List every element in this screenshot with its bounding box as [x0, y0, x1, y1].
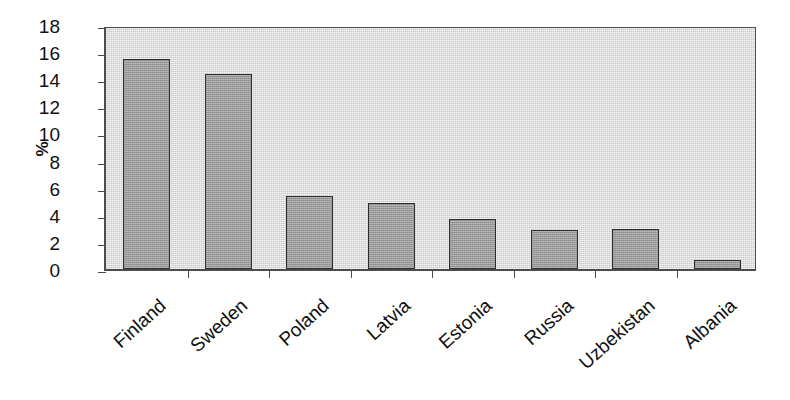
x-axis-tick-labels: FinlandSwedenPolandLatviaEstoniaRussiaUz…: [0, 0, 790, 400]
bar-chart: % 024681012141618 FinlandSwedenPolandLat…: [0, 0, 790, 400]
